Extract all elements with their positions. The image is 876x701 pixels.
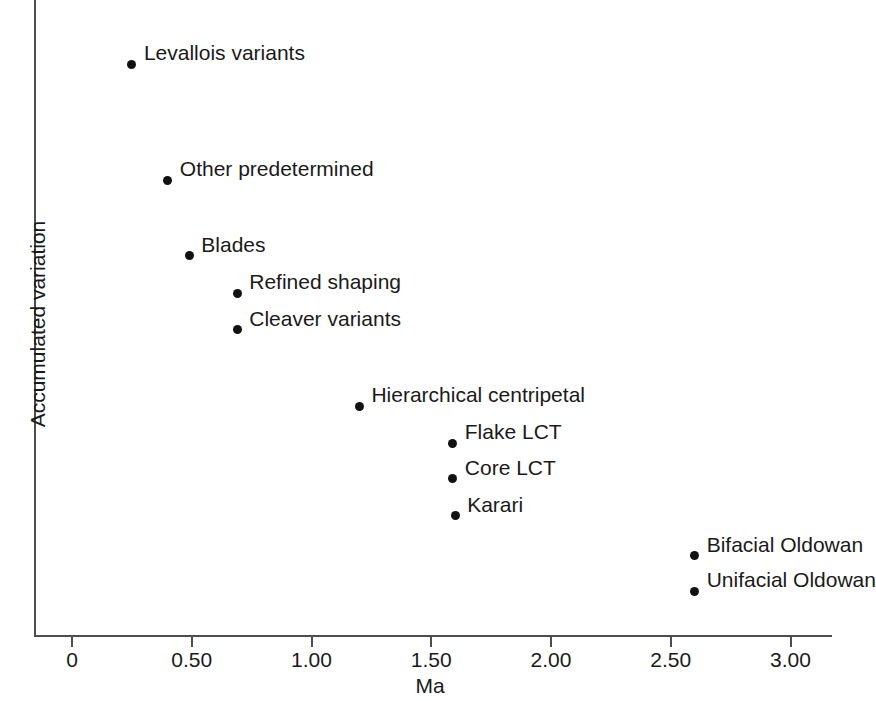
data-point-label: Core LCT (465, 457, 556, 478)
data-point[interactable] (233, 289, 242, 298)
data-point-label: Unifacial Oldowan (707, 569, 876, 590)
data-point[interactable] (451, 511, 460, 520)
data-point-label: Flake LCT (465, 421, 562, 442)
data-point[interactable] (127, 60, 136, 69)
data-point[interactable] (355, 402, 364, 411)
data-point-label: Karari (467, 494, 523, 515)
data-point-label: Hierarchical centripetal (371, 384, 585, 405)
x-axis-title: Ma (0, 674, 872, 698)
data-point[interactable] (163, 176, 172, 185)
data-point[interactable] (690, 587, 699, 596)
y-axis-title: Accumulated variation (26, 194, 50, 454)
data-point[interactable] (233, 325, 242, 334)
data-point[interactable] (185, 251, 194, 260)
data-point-label: Levallois variants (144, 42, 305, 63)
data-point-label: Cleaver variants (249, 308, 401, 329)
data-point-label: Blades (201, 234, 265, 255)
data-point[interactable] (448, 474, 457, 483)
data-point[interactable] (690, 551, 699, 560)
data-point-label: Refined shaping (249, 271, 401, 292)
data-point-label: Other predetermined (180, 158, 374, 179)
data-point-label: Bifacial Oldowan (707, 534, 863, 555)
data-point[interactable] (448, 439, 457, 448)
x-axis-title-text: Ma (415, 674, 444, 698)
